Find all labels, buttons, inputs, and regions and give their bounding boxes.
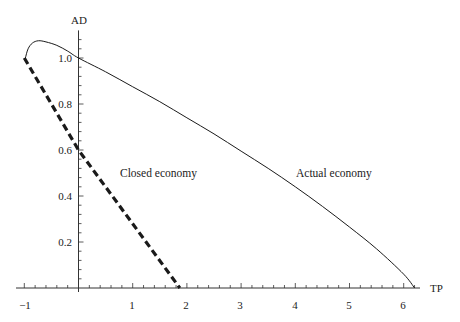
y-tick-label: 0.4	[58, 190, 72, 202]
x-tick-label: 5	[346, 299, 352, 311]
x-axis-label: TP	[430, 282, 443, 294]
y-tick-label: 0.8	[58, 98, 72, 110]
y-tick-label: 1.0	[58, 52, 72, 64]
actual-economy-curve	[25, 41, 414, 288]
chart: AD TP −1 1 2 3 4 5 6 0.2 0.4 0.6 0.8 1.0…	[0, 0, 460, 322]
ticks	[24, 40, 414, 288]
y-axis-label: AD	[71, 14, 87, 26]
x-tick-label: −1	[19, 299, 31, 311]
x-tick-label: 1	[129, 299, 135, 311]
series	[24, 41, 414, 288]
x-tick-label: 6	[400, 299, 406, 311]
x-tick-label: 4	[292, 299, 298, 311]
closed-economy-label: Closed economy	[120, 167, 197, 180]
y-tick-label: 0.6	[58, 144, 72, 156]
axes	[16, 30, 420, 292]
x-tick-label: 2	[183, 299, 189, 311]
actual-economy-label: Actual economy	[296, 167, 372, 180]
y-tick-label: 0.2	[58, 236, 72, 248]
x-tick-label: 3	[237, 299, 243, 311]
